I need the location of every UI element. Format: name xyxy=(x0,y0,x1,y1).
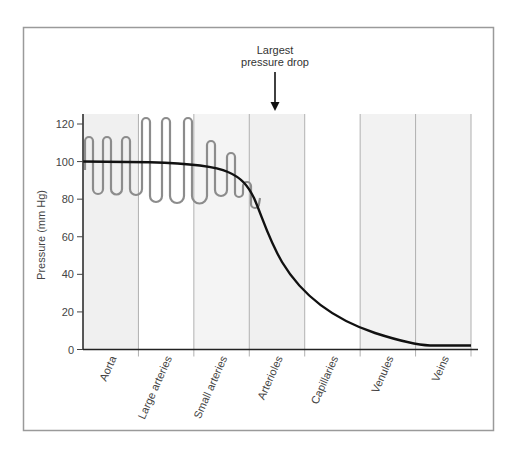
annotation-line1: Largest xyxy=(257,44,294,56)
column-venules xyxy=(360,114,415,350)
column-small-arteries xyxy=(194,114,249,350)
y-tick-label: 20 xyxy=(62,306,74,318)
y-tick-label: 100 xyxy=(56,156,74,168)
column-veins xyxy=(416,114,471,350)
column-arterioles xyxy=(249,114,304,350)
y-tick-label: 80 xyxy=(62,193,74,205)
y-axis-title: Pressure (mm Hg) xyxy=(35,190,47,280)
y-tick-label: 60 xyxy=(62,231,74,243)
y-tick-label: 40 xyxy=(62,268,74,280)
y-tick-label: 120 xyxy=(56,118,74,130)
y-tick-label: 0 xyxy=(68,344,74,356)
column-large-arteries xyxy=(138,114,193,350)
annotation-line2: pressure drop xyxy=(241,56,309,68)
chart-figure: 020406080100120 AortaLarge arteriesSmall… xyxy=(0,0,508,465)
